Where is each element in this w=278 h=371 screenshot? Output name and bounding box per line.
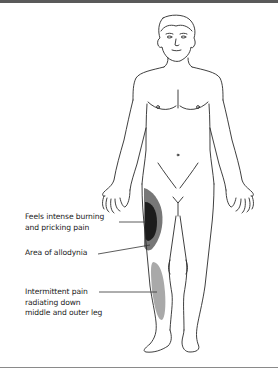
left-leg-inner [180,216,187,330]
radiating-pain-region [151,262,165,320]
left-groin-line [158,163,176,188]
right-pec [180,102,208,109]
annotation-allodynia: Area of allodynia [25,248,87,259]
left-hand [103,190,131,213]
right-groin-line [180,163,198,188]
left-arm-outer [103,100,133,196]
annotation-line: Area of allodynia [25,248,87,259]
right-arm-inner [210,128,226,190]
left-eyebrow [166,33,173,34]
body-outline [103,15,254,352]
genital-outline [173,197,183,216]
right-arm-outer [223,100,253,196]
left-nipple [157,106,160,109]
right-eyebrow [180,33,187,34]
nose [175,39,179,46]
torso-left [142,104,147,184]
right-eye [181,36,186,38]
right-leg-inner [169,216,176,330]
neck-right [188,58,192,67]
annotation-line: Intermittent pain [25,287,102,298]
annotation-line: radiating down [25,298,102,309]
torso-right [209,104,214,184]
mouth [172,50,181,51]
annotation-intermittent-pain: Intermittent pain radiating down middle … [25,287,102,319]
annotation-line: and pricking pain [25,223,104,234]
bottom-divider [0,367,278,368]
neck-left [164,58,168,67]
hairline [161,25,192,31]
left-pec [148,102,176,109]
annotation-line: middle and outer leg [25,308,102,319]
right-shoulder [192,67,223,100]
head-outline [158,15,196,61]
right-hand [226,190,254,213]
annotation-line: Feels intense burning [25,212,104,223]
left-shoulder [133,67,164,100]
annotation-burning-pain: Feels intense burning and pricking pain [25,212,104,233]
leader-allodynia [98,245,150,254]
left-arm-inner [130,128,146,190]
right-nipple [197,106,200,109]
navel [177,154,179,156]
left-eye [167,36,172,38]
